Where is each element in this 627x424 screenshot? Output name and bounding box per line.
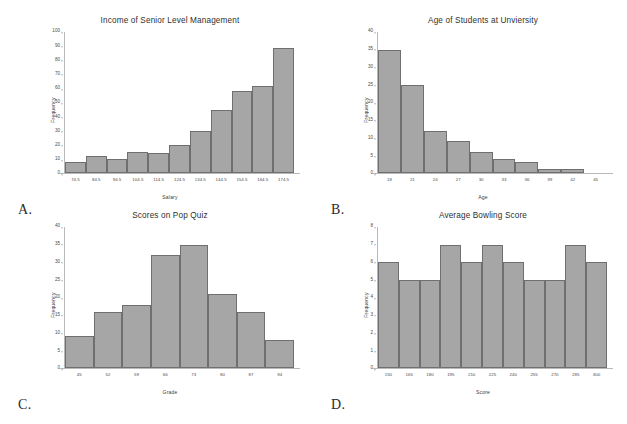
chart-title: Scores on Pop Quiz [38,211,302,220]
x-axis-tick: 52 [94,373,123,377]
histogram-bar [65,336,94,368]
histogram-bar [180,245,209,368]
histogram-bar [107,159,128,173]
x-axis-tick: 39 [538,178,561,182]
plot-area: 0510152025303540 4552596673808794 [64,227,294,369]
bar-series [65,32,294,173]
x-axis-ticks: 4552596673808794 [65,373,294,377]
histogram-bar [265,340,294,368]
y-axis-tick: 4 [370,296,373,301]
x-axis-tick: 240 [503,373,524,377]
x-axis-ticks: 74.584.594.5104.5114.5124.5134.5144.5154… [65,178,294,182]
y-axis-tick: 5 [57,349,60,354]
histogram-bar [461,262,482,368]
x-axis-tick: 94.5 [107,178,128,182]
x-axis-tick: 165 [399,373,420,377]
x-axis-tick: 80 [208,373,237,377]
panel-letter-d: D. [331,397,346,413]
bar-series [378,32,607,173]
histogram-bar [273,48,294,173]
histogram-bar [378,50,401,173]
histogram-bar [169,145,190,173]
x-axis-line [60,368,300,369]
histogram-bar [94,312,123,368]
y-axis-tick: 20 [368,101,373,106]
histogram-bar [232,91,253,173]
x-axis-tick: 104.5 [127,178,148,182]
bar-series [65,227,294,368]
x-axis-tick: 270 [545,373,566,377]
histogram-bar [470,152,493,173]
histogram-bar [65,162,86,173]
y-axis-tick: 15 [368,118,373,123]
y-axis-tick: 5 [370,154,373,159]
histogram-bar [190,131,211,173]
histogram-bar [148,153,169,173]
x-axis-tick: 33 [493,178,516,182]
x-axis-line [373,173,613,174]
y-axis-tick: 100 [52,30,60,35]
x-axis-tick: 27 [447,178,470,182]
y-axis-tick: 90 [55,44,60,49]
x-axis-tick: 24 [424,178,447,182]
x-axis-tick: 164.5 [252,178,273,182]
histogram-bar [211,110,232,173]
y-axis-tick: 10 [55,158,60,163]
histogram-average-bowling-score: Average Bowling Score Frequency 01234567… [351,211,615,399]
x-axis-label: Age [351,194,615,200]
x-axis-tick: 18 [378,178,401,182]
chart-panel-c: Scores on Pop Quiz Frequency 05101520253… [0,205,313,417]
x-axis-tick: 45 [584,178,607,182]
x-axis-tick: 59 [122,373,151,377]
x-axis-tick: 45 [65,373,94,377]
histogram-bar [151,255,180,368]
y-axis-tick: 50 [55,101,60,106]
plot-area: 0510152025303540 18212427303336394245 [377,32,607,174]
histogram-bar [399,280,420,368]
histogram-bar [503,262,524,368]
x-axis-tick: 195 [440,373,461,377]
histogram-bar [378,262,399,368]
y-axis-tick: 7 [370,242,373,247]
x-axis-line [373,368,613,369]
y-axis-tick: 35 [55,242,60,247]
y-axis-tick: 40 [55,225,60,230]
x-axis-tick: 154.5 [232,178,253,182]
x-axis-tick: 66 [151,373,180,377]
chart-title: Income of Senior Level Management [38,16,302,25]
bar-series [378,227,607,368]
y-axis-tick: 5 [370,278,373,283]
histogram-bar [401,85,424,173]
y-axis-tick: 8 [370,225,373,230]
x-axis-tick: 285 [565,373,586,377]
plot-area: 012345678 150165180195210225240255270285… [377,227,607,369]
histogram-bar [493,159,516,173]
panel-letter-c: C. [18,397,32,413]
chart-panel-b: Age of Students at Unviersity Frequency … [313,10,626,222]
x-axis-tick: 87 [237,373,266,377]
x-axis-label: Grade [38,389,302,395]
x-axis-tick: 180 [420,373,441,377]
histogram-bar [237,312,266,368]
histogram-scores-on-pop-quiz: Scores on Pop Quiz Frequency 05101520253… [38,211,302,399]
x-axis-tick: 21 [401,178,424,182]
y-axis-tick: 80 [55,58,60,63]
histogram-bar [447,141,470,173]
histogram-bar [515,162,538,173]
chart-title: Average Bowling Score [351,211,615,220]
y-axis-tick: 20 [55,143,60,148]
histogram-bar [122,305,151,368]
histogram-age-of-students-at-university: Age of Students at Unviersity Frequency … [351,16,615,204]
x-axis-tick: 174.5 [273,178,294,182]
histogram-bar [440,245,461,368]
histogram-income-senior-level-management: Income of Senior Level Management Freque… [38,16,302,204]
histogram-bar [524,280,545,368]
x-axis-tick: 134.5 [190,178,211,182]
y-axis-tick: 40 [55,115,60,120]
y-axis-tick: 60 [55,87,60,92]
histogram-bar [252,86,273,173]
x-axis-tick: 255 [524,373,545,377]
y-axis-tick: 30 [368,65,373,70]
histogram-bar [420,280,441,368]
x-axis-line [60,173,300,174]
